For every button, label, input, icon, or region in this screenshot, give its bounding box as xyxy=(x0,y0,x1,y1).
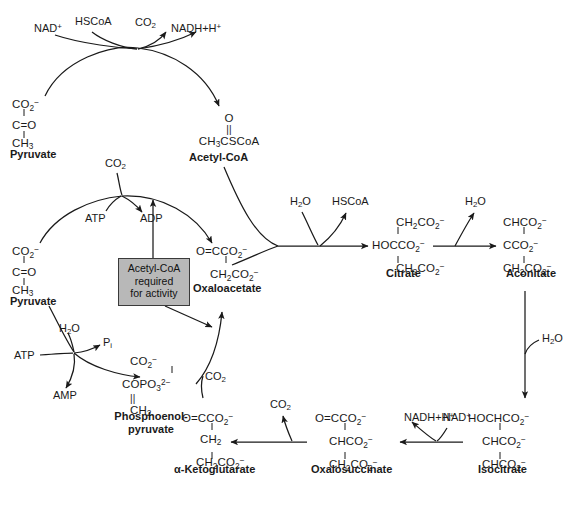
arrow-nad-in-idh xyxy=(437,428,447,441)
label-pyruvate-mid: Pyruvate xyxy=(10,295,56,308)
pathway-diagram: NAD+ HSCoA CO2 NADH+H+ CO2− C=O CH3 Pyru… xyxy=(0,0,578,505)
cofactor-hscoa-citrate-synthase: HSCoA xyxy=(332,195,369,208)
arrow-co2-out-top xyxy=(138,32,166,49)
cofactor-nad-plus-top: NAD+ xyxy=(34,22,62,35)
cofactor-co2-pyruvate-carboxylase: CO2 xyxy=(105,157,126,171)
cofactor-amp-pepck: AMP xyxy=(53,389,77,402)
arrow-h2o-out-aconitase-1 xyxy=(455,213,474,246)
arrow-h2o-in-citrate-synthase xyxy=(302,212,318,245)
label-oxaloacetate: Oxaloacetate xyxy=(193,282,261,295)
structure-pyruvate-mid: CO2− C=O CH3 xyxy=(12,243,39,300)
arrow-pi-out-peps xyxy=(74,345,100,353)
arrow-hscoa-out-citrate-synthase xyxy=(320,213,346,246)
arrow-nadh-out-idh xyxy=(412,422,436,441)
cofactor-pi-pepck: Pi xyxy=(103,336,112,350)
arrow-adp-out-pc xyxy=(122,196,142,212)
label-alpha-ketoglutarate: α-Ketoglutarate xyxy=(174,463,255,476)
label-aconitate: Aconitate xyxy=(506,267,556,280)
cofactor-nad-plus-isocitrate: NAD+ xyxy=(443,411,471,424)
cofactor-h2o-pepck: H2O xyxy=(59,322,80,336)
arrow-co2-in-pc xyxy=(117,173,122,195)
annotation-line-2: required xyxy=(119,275,189,288)
arrow-h2o-in-aconitase-2 xyxy=(525,340,539,354)
annotation-line-1: Acetyl-CoA xyxy=(119,262,189,275)
cofactor-adp-pyruvate-carboxylase: ADP xyxy=(140,212,163,225)
label-pyruvate-top: Pyruvate xyxy=(10,148,56,161)
arrow-amp-out-peps xyxy=(66,354,75,388)
cofactor-atp-pepck: ATP xyxy=(14,349,35,362)
arrow-atp-in-peps xyxy=(40,353,73,355)
cofactor-co2-top: CO2 xyxy=(135,16,156,30)
label-isocitrate: Isocitrate xyxy=(478,463,527,476)
cofactor-h2o-aconitase-1: H2O xyxy=(465,195,486,209)
arrow-co2-out-decarboxylation xyxy=(283,416,292,441)
arrow-acetylcoa-down-to-citrate-junction xyxy=(224,167,278,246)
cofactor-h2o-citrate-synthase: H2O xyxy=(290,195,311,209)
structure-acetyl-coa: O || CH3CSCoA xyxy=(186,112,272,151)
label-acetyl-coa: Acetyl-CoA xyxy=(189,151,248,164)
annotation-box-acetyl-coa-required: Acetyl-CoA required for activity xyxy=(118,258,190,306)
cofactor-nadh-h-top: NADH+H+ xyxy=(171,22,221,35)
annotation-line-3: for activity xyxy=(119,287,189,300)
arrow-co2-in-pep-carboxylase xyxy=(202,376,204,398)
structure-oxaloacetate: O=CCO2− CH2CO2− xyxy=(196,243,259,285)
cofactor-h2o-aconitase-2: H2O xyxy=(542,332,563,346)
arrow-pyruvate-to-pdh xyxy=(45,47,138,96)
cofactor-co2-oxalosuccinate: CO2 xyxy=(270,398,291,412)
cofactor-co2-pep-carboxylase: CO2 xyxy=(205,370,226,384)
label-phosphoenolpyruvate-line1: Phosphoenol- xyxy=(101,410,201,423)
label-citrate: Citrate xyxy=(386,267,421,280)
label-phosphoenolpyruvate-line2: pyruvate xyxy=(101,423,201,436)
arrow-atp-in-pc xyxy=(106,196,121,211)
structure-pyruvate-top: CO2− C=O CH3 xyxy=(12,96,39,153)
cofactor-atp-pyruvate-carboxylase: ATP xyxy=(85,212,106,225)
cofactor-hscoa-top: HSCoA xyxy=(75,15,112,28)
arrow-pdh-to-acetylcoa xyxy=(138,48,219,106)
arrow-nad-in-top xyxy=(55,35,137,49)
arrow-box-to-pep-carboxylase xyxy=(165,306,212,327)
label-oxalosuccinate: Oxalosuccinate xyxy=(311,463,392,476)
arrow-hscoa-in-top xyxy=(92,32,137,49)
arrow-pc-to-oxaloacetate xyxy=(122,196,212,243)
arrow-pyruvate-to-pc xyxy=(40,196,122,243)
